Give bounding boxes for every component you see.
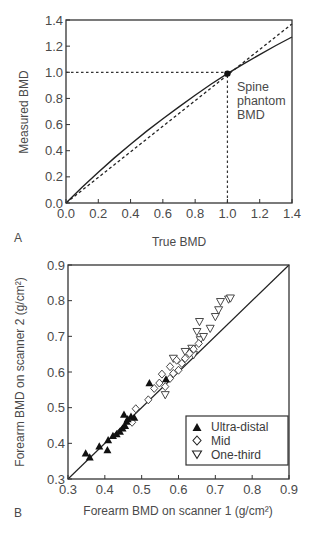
y-tick-label: 1.0 bbox=[45, 65, 63, 80]
spine-phantom-annotation-line-2: phantom bbox=[237, 94, 286, 108]
ultra-distal-point bbox=[145, 379, 153, 386]
panel-a-x-axis-title: True BMD bbox=[152, 235, 207, 249]
x-tick-label: 0.5 bbox=[133, 482, 151, 497]
x-tick-label: 0.4 bbox=[122, 206, 140, 221]
ultra-distal-point bbox=[82, 449, 90, 456]
x-tick-label: 0.7 bbox=[206, 482, 224, 497]
y-tick-label: 0.5 bbox=[47, 400, 65, 415]
x-tick-label: 0.4 bbox=[96, 482, 114, 497]
y-tick-label: 0.0 bbox=[45, 196, 63, 211]
panel-b-legend: Ultra-distal Mid One-third bbox=[186, 416, 288, 465]
x-tick-label: 1.4 bbox=[283, 206, 301, 221]
spine-phantom-point bbox=[224, 70, 230, 76]
one-third-point bbox=[161, 392, 169, 399]
x-tick-label: 0.6 bbox=[169, 482, 187, 497]
panel-b-chart: 0.30.40.50.60.70.80.90.30.40.50.60.70.80… bbox=[13, 258, 298, 521]
one-third-point bbox=[195, 319, 203, 326]
x-tick-label: 1.2 bbox=[251, 206, 269, 221]
y-tick-label: 0.2 bbox=[45, 169, 63, 184]
panel-a-label: A bbox=[14, 231, 22, 245]
x-tick-label: 0.2 bbox=[89, 206, 107, 221]
y-tick-label: 0.9 bbox=[47, 258, 65, 273]
y-tick-label: 1.4 bbox=[45, 13, 63, 28]
one-third-point bbox=[206, 325, 214, 332]
y-tick-label: 0.8 bbox=[45, 91, 63, 106]
panel-a-chart: 0.00.20.40.60.81.01.21.40.00.20.40.60.81… bbox=[14, 13, 301, 250]
y-tick-label: 0.6 bbox=[47, 365, 65, 380]
y-tick-label: 0.6 bbox=[45, 117, 63, 132]
spine-phantom-annotation-line-3: BMD bbox=[237, 108, 265, 122]
x-tick-label: 0.8 bbox=[243, 482, 261, 497]
panel-b-y-axis-title: Forearm BMD on scanner 2 (g/cm²) bbox=[13, 277, 27, 466]
x-tick-label: 0.8 bbox=[186, 206, 204, 221]
ultra-distal-point bbox=[120, 410, 128, 417]
figure-canvas: 0.00.20.40.60.81.01.21.40.00.20.40.60.81… bbox=[0, 0, 310, 537]
y-tick-label: 0.4 bbox=[47, 436, 65, 451]
one-third-point bbox=[215, 307, 223, 314]
panel-b-x-axis-title: Forearm BMD on scanner 1 (g/cm²) bbox=[83, 504, 272, 518]
y-tick-label: 1.2 bbox=[45, 39, 63, 54]
legend-label-mid: Mid bbox=[211, 434, 230, 448]
mid-point bbox=[145, 396, 152, 404]
one-third-point bbox=[216, 299, 224, 306]
x-tick-label: 1.0 bbox=[218, 206, 236, 221]
x-tick-label: 0.9 bbox=[280, 482, 298, 497]
one-third-point bbox=[211, 314, 219, 321]
x-tick-label: 0.6 bbox=[154, 206, 172, 221]
y-tick-label: 0.8 bbox=[47, 293, 65, 308]
y-tick-label: 0.3 bbox=[47, 472, 65, 487]
y-tick-label: 0.7 bbox=[47, 329, 65, 344]
ultra-distal-point bbox=[103, 446, 111, 453]
spine-phantom-annotation-line-1: Spine bbox=[237, 80, 269, 94]
legend-label-ultra-distal: Ultra-distal bbox=[211, 420, 268, 434]
y-tick-label: 0.4 bbox=[45, 143, 63, 158]
panel-b-label: B bbox=[14, 506, 22, 520]
legend-label-one-third: One-third bbox=[211, 448, 261, 462]
mid-point bbox=[158, 370, 165, 378]
mid-point bbox=[166, 363, 173, 371]
panel-a-y-axis-title: Measured BMD bbox=[17, 70, 31, 154]
